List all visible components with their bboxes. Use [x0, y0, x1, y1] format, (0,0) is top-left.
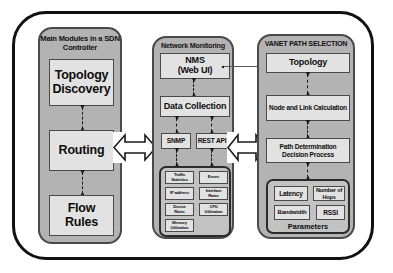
connector-topology-discovery-to-routing	[82, 107, 83, 129]
parameter-latency-label: Latency	[279, 190, 303, 197]
node-data-collection-label: Data Collection	[164, 102, 227, 112]
connector-path-determination-to-parameters	[307, 164, 308, 178]
panel-vanet-path-selection: VANET PATH SELECTION Topology Node and L…	[257, 34, 355, 239]
parameter-rssi[interactable]: RSSI	[316, 205, 345, 220]
node-vanet-topology[interactable]: Topology	[266, 53, 350, 73]
metric-cpu-utilization[interactable]: CPU Utilization	[199, 203, 228, 216]
metric-device-rates-line2: Rates	[173, 210, 185, 215]
metric-memory-utilization-line2: Utilization	[171, 226, 189, 231]
metric-ip-address-line1: IP address	[170, 191, 189, 196]
subpanel-monitoring-metrics: Traffic Statistics Errors IP address Int…	[159, 166, 231, 237]
parameter-number-of-hops-line1: Number of	[316, 187, 342, 193]
parameter-bandwidth-label: Bandwidth	[278, 209, 307, 216]
arrow-sdn-to-monitoring	[113, 132, 157, 163]
connector-routing-to-flow-rules	[82, 172, 83, 194]
node-node-link-calculation-label: Node and Link Calculation	[269, 104, 347, 111]
node-routing[interactable]: Routing	[49, 130, 114, 171]
panel-vanet-path-selection-title: VANET PATH SELECTION	[259, 41, 353, 49]
parameter-rssi-label: RSSI	[323, 209, 338, 216]
parameter-number-of-hops-line2: Hops	[316, 194, 342, 200]
connector-nms-to-data-collection	[193, 80, 194, 95]
subpanel-vanet-parameters-label: Parameters	[268, 222, 348, 231]
node-path-determination[interactable]: Path Determination Decision Process	[266, 138, 350, 163]
metric-traffic-statistics-line2: Statistics	[171, 178, 188, 183]
node-snmp-label: SNMP	[167, 137, 185, 144]
metric-errors[interactable]: Errors	[199, 171, 228, 184]
connector-data-collection-to-rest-api	[211, 118, 212, 132]
parameter-bandwidth[interactable]: Bandwidth	[274, 205, 310, 220]
node-path-determination-line2: Decision Process	[280, 151, 337, 158]
node-topology-discovery-line2: Discovery	[53, 83, 111, 97]
vanet-title-line1: VANET PATH SELECTION	[265, 40, 347, 48]
node-topology-discovery[interactable]: Topology Discovery	[49, 59, 114, 106]
metric-errors-line1: Errors	[208, 175, 219, 180]
connector-node-link-calculation-to-path-determination	[307, 122, 308, 137]
diagram-canvas: Main Modules in a SDN Controller Topolog…	[0, 0, 393, 273]
metric-interface-rates-line2: Rates	[206, 194, 222, 199]
node-data-collection[interactable]: Data Collection	[160, 96, 230, 117]
node-topology-discovery-line1: Topology	[53, 69, 111, 83]
metric-interface-rates[interactable]: Interface Rates	[199, 187, 228, 200]
connector-rest-api-to-metrics	[211, 150, 212, 165]
panel-sdn-controller-title: Main Modules in a SDN Controller	[40, 35, 120, 52]
connector-snmp-to-metrics	[176, 150, 177, 165]
monitoring-title-line1: Network Monitoring	[161, 41, 225, 50]
node-nms[interactable]: NMS (Web UI)	[160, 53, 230, 79]
node-vanet-topology-label: Topology	[289, 58, 327, 68]
node-rest-api-label: REST API	[198, 137, 227, 144]
parameter-latency[interactable]: Latency	[274, 186, 308, 201]
panel-network-monitoring-title: Network Monitoring	[154, 42, 232, 50]
metric-ip-address[interactable]: IP address	[165, 187, 194, 200]
node-flow-rules-label: Flow Rules	[50, 202, 113, 230]
connector-nms-to-topology	[222, 66, 259, 67]
parameter-number-of-hops[interactable]: Number of Hops	[313, 186, 345, 201]
node-flow-rules[interactable]: Flow Rules	[49, 195, 114, 236]
metric-traffic-statistics[interactable]: Traffic Statistics	[165, 171, 194, 184]
node-nms-line2: (Web UI)	[178, 66, 213, 76]
metric-device-rates[interactable]: Device Rates	[165, 203, 194, 216]
node-rest-api[interactable]: REST API	[196, 133, 228, 149]
node-path-determination-line1: Path Determination	[280, 143, 337, 150]
panel-sdn-controller: Main Modules in a SDN Controller Topolog…	[38, 27, 122, 244]
metric-memory-utilization[interactable]: Memory Utilization	[165, 219, 194, 232]
node-snmp[interactable]: SNMP	[161, 133, 191, 149]
metric-cpu-utilization-line2: Utilization	[205, 210, 223, 215]
connector-topology-to-node-link-calculation	[307, 74, 308, 94]
node-routing-label: Routing	[59, 144, 105, 158]
subpanel-vanet-parameters: Latency Number of Hops Bandwidth RSSI Pa	[266, 179, 350, 234]
node-node-link-calculation[interactable]: Node and Link Calculation	[266, 95, 350, 121]
connector-data-collection-to-snmp	[176, 118, 177, 132]
